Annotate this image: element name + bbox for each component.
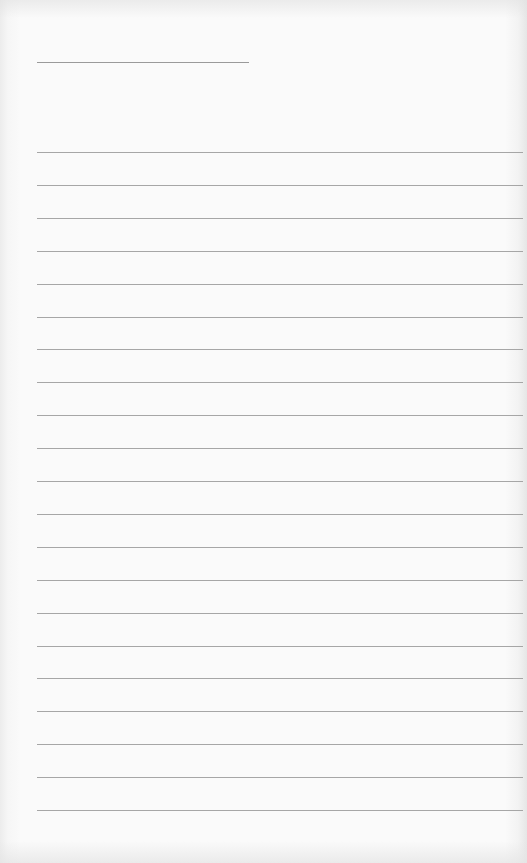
writing-line bbox=[37, 382, 523, 383]
writing-line bbox=[37, 481, 523, 482]
writing-line bbox=[37, 218, 523, 219]
heading-line bbox=[37, 62, 249, 63]
writing-line bbox=[37, 547, 523, 548]
writing-line bbox=[37, 251, 523, 252]
writing-line bbox=[37, 514, 523, 515]
writing-line bbox=[37, 349, 523, 350]
writing-line bbox=[37, 613, 523, 614]
writing-line bbox=[37, 185, 523, 186]
writing-line bbox=[37, 448, 523, 449]
writing-line bbox=[37, 415, 523, 416]
writing-line bbox=[37, 317, 523, 318]
writing-line bbox=[37, 777, 523, 778]
writing-line bbox=[37, 152, 523, 153]
writing-line bbox=[37, 678, 523, 679]
writing-line bbox=[37, 580, 523, 581]
writing-line bbox=[37, 810, 523, 811]
writing-line bbox=[37, 284, 523, 285]
writing-line bbox=[37, 744, 523, 745]
writing-line bbox=[37, 646, 523, 647]
lined-paper-page bbox=[0, 0, 527, 863]
writing-line bbox=[37, 711, 523, 712]
